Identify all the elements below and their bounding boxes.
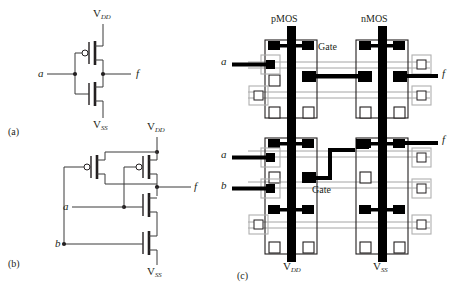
layout-input-label-a-top: a [221, 56, 227, 67]
output-label-b: f [194, 181, 197, 192]
layout-input-label-b-bottom: b [221, 180, 227, 191]
pmos-left-pad-contact-top [254, 91, 263, 100]
output-f-contact-top [393, 71, 407, 82]
schematic-inverter [47, 24, 131, 118]
pmos-contact-mr-bottom [302, 205, 314, 214]
nmos-strap-top [371, 44, 393, 48]
gate-label-bottom: Gate [312, 185, 331, 195]
nmos-open-contact-br-top [394, 107, 405, 118]
input-a-contact-top [266, 60, 275, 69]
nmos-right-pad-contact-lower-top [417, 91, 426, 100]
input-a-lead-top [232, 63, 266, 67]
junction-dot-output-a [101, 72, 105, 76]
layout-input-label-a-bottom: a [221, 149, 227, 160]
layout-output-label-f-bottom: f [442, 134, 445, 145]
nmos-right-pad-contact-a-bottom [417, 153, 426, 162]
schematic-nand [62, 137, 191, 265]
nmos-open-contact-bl-top [360, 107, 371, 118]
input-b-lead-bottom [232, 187, 266, 191]
pmos-contact-tr-bottom [302, 139, 314, 148]
pmos-open-contact-bl-bottom [269, 242, 280, 253]
nmos-contact-mr-bottom [393, 205, 405, 214]
output-f-lead-top [407, 74, 438, 78]
pmos-gate-pad-bottom [302, 172, 316, 183]
gate-label-top: Gate [318, 42, 337, 52]
nmos-open-contact-bl-bottom [360, 242, 371, 253]
pmos-left-pad-contact-bottom [254, 220, 263, 229]
junction-dot-input-a [73, 72, 77, 76]
input-label-a: a [38, 68, 44, 79]
pmos-bubble-icon-a [82, 50, 88, 56]
input-label-b-b: b [55, 238, 61, 249]
pmos-contact-ml-bottom [268, 205, 280, 214]
vss-label-b: VSS [147, 266, 162, 279]
layout-output-label-f-top: f [442, 68, 445, 79]
nmos-contact-tr-top [393, 41, 405, 50]
nmos-open-contact-mid-bottom [360, 172, 371, 183]
pmos1-bubble-icon-b [84, 164, 90, 170]
vss-rail-top [378, 26, 387, 134]
pmos-open-contact-mid-bottom [269, 172, 280, 183]
pmos-open-contact-br-top [303, 107, 314, 118]
pmos-contact-tr-top [302, 41, 314, 50]
nmos-right-pad-contact-c-bottom [417, 220, 426, 229]
pmos-strap-top [280, 44, 302, 48]
pmos-contact-tl-bottom [268, 139, 280, 148]
pmos-strap-upper-bottom [280, 142, 302, 146]
nmos-contact-ml-bottom [359, 205, 371, 214]
input-label-a-b: a [63, 201, 69, 212]
nmos-gate-pad-top [358, 71, 372, 82]
pmos-gate-pad-top [302, 71, 316, 82]
vss-label-a: VSS [93, 119, 108, 132]
column-header-nmos: nMOS [361, 14, 388, 24]
gate-route-wire-top [314, 74, 360, 79]
subfigure-label-c: (c) [237, 271, 248, 281]
figure-vector-canvas [0, 0, 453, 291]
layout-diagram [232, 26, 438, 262]
pmos-open-contact-bl-top [269, 107, 280, 118]
output-label-a: f [136, 68, 139, 79]
nmos-contact-tr-bottom [393, 139, 405, 148]
track-lines-bottom [248, 151, 430, 228]
vdd-rail-top [287, 26, 296, 134]
pmos-open-contact-left-top [269, 75, 280, 86]
vdd-label-a: VDD [93, 8, 111, 21]
input-b-contact-bottom [266, 184, 275, 193]
rail-label-vdd-layout: VDD [283, 261, 301, 274]
nmos-contact-tl-top [359, 41, 371, 50]
nmos-right-pad-contact-upper-top [417, 60, 426, 69]
nmos-gate-pad-bottom [356, 139, 369, 149]
subfigure-label-b: (b) [8, 259, 20, 269]
vdd-label-b: VDD [147, 121, 165, 134]
input-a-lead-bottom [232, 156, 266, 160]
nmos-strap-mid-bottom [371, 208, 393, 212]
nmos-strap-upper-bottom [371, 142, 393, 146]
pmos2-bubble-icon-b [136, 164, 142, 170]
pmos-contact-tl-top [268, 41, 280, 50]
input-a-contact-bottom [266, 153, 275, 162]
nmos-open-contact-br-bottom [394, 242, 405, 253]
output-f-lead-bottom [405, 141, 438, 145]
subfigure-label-a: (a) [8, 127, 19, 137]
junction-dot-b-b [62, 242, 66, 246]
pmos-open-contact-br-bottom [303, 242, 314, 253]
vdd-rail-bottom [287, 130, 296, 262]
nmos-right-pad-contact-b-bottom [417, 184, 426, 193]
rail-label-vss-layout: VSS [373, 261, 388, 274]
column-header-pmos: pMOS [271, 14, 298, 24]
figure-cmos-inverter-nand: VDD VSS a f (a) VDD VSS a b f (b) pMOS n… [0, 0, 453, 291]
vss-rail-bottom [378, 130, 387, 262]
pmos-strap-mid-bottom [280, 208, 302, 212]
